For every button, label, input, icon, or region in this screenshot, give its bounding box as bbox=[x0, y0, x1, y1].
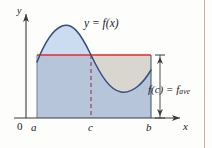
page-edge-line bbox=[204, 0, 205, 148]
curve-label: y = f(x) bbox=[84, 18, 119, 30]
mvt-integrals-figure: y = f(x) f(c) = fave 0 a c b x y bbox=[0, 0, 212, 148]
tick-label-a: a bbox=[31, 122, 37, 133]
average-value-label-subscript: ave bbox=[179, 87, 190, 96]
y-axis-label: y bbox=[17, 6, 21, 16]
average-value-label-main: f(c) = f bbox=[148, 83, 179, 95]
tick-label-b: b bbox=[146, 122, 152, 133]
average-value-label: f(c) = fave bbox=[148, 84, 190, 96]
origin-label: 0 bbox=[17, 121, 23, 132]
tick-label-c: c bbox=[88, 122, 93, 133]
x-axis-label: x bbox=[183, 121, 188, 132]
